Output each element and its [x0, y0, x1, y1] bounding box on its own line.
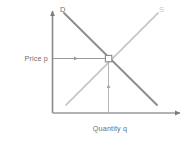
supply-curve-label: S — [159, 5, 164, 14]
supply-demand-figure: D S Price p Quantity q — [0, 0, 194, 141]
equilibrium-marker — [105, 55, 111, 61]
demand-curve-label: D — [60, 5, 66, 14]
axes-group — [53, 11, 181, 113]
y-axis-label: Price p — [25, 54, 48, 63]
diagram-canvas: D S Price p Quantity q — [0, 0, 194, 141]
x-axis-label: Quantity q — [93, 124, 127, 133]
